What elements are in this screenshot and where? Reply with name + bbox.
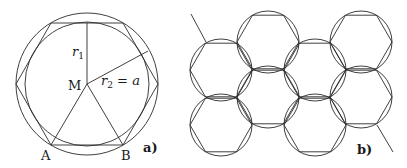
lattice-edge-line <box>377 125 393 152</box>
cell-circle <box>190 94 252 156</box>
r2-label: r2 = a <box>101 73 140 90</box>
cell-circle <box>237 11 299 73</box>
cell-circle <box>237 66 299 128</box>
cell-circle <box>330 66 392 128</box>
segment-MA <box>51 84 87 145</box>
figure-b: b) <box>190 11 393 157</box>
cell-circle <box>284 39 346 101</box>
figure-b-label: b) <box>357 142 372 157</box>
figure-a-label: a) <box>143 140 158 155</box>
vertex-label-B: B <box>121 148 131 163</box>
r1-label: r1 <box>72 44 84 61</box>
segment-MB <box>87 84 123 145</box>
cell-circle <box>330 11 392 73</box>
cell-circle <box>284 94 346 156</box>
center-label-M: M <box>68 78 81 93</box>
figure-a: r1 M r2 = a A B a) <box>16 13 158 163</box>
lattice-edge-line <box>191 14 206 42</box>
cell-hexagon <box>330 70 392 124</box>
cell-circle <box>190 39 252 101</box>
vertex-label-A: A <box>40 148 51 163</box>
cell-hexagon <box>330 15 392 69</box>
diagram-canvas: r1 M r2 = a A B a) b) <box>0 0 407 168</box>
